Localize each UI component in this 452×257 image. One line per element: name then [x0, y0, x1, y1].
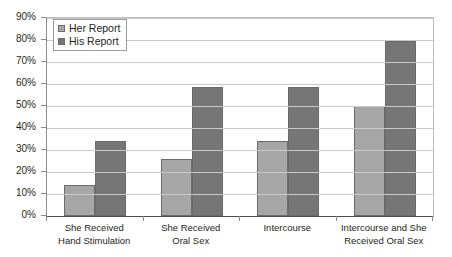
legend-item-label: Her Report	[69, 23, 120, 34]
x-category-line: Intercourse and She	[337, 222, 432, 235]
gridline	[47, 62, 433, 63]
legend-item[interactable]: His Report	[58, 36, 120, 47]
legend-item-label: His Report	[69, 36, 119, 47]
y-tick-label: 10%	[16, 188, 36, 198]
legend-swatch-her-icon	[58, 25, 65, 32]
y-axis: 90%80%70%60%50%40%30%20%10%0%	[0, 0, 41, 257]
gridline	[47, 172, 433, 173]
y-tick-label: 60%	[16, 78, 36, 88]
y-tick-label: 80%	[16, 34, 36, 44]
y-tick-label: 90%	[16, 12, 36, 22]
bar-group	[240, 18, 337, 216]
y-tick-mark	[41, 193, 46, 194]
y-tick-label: 70%	[16, 56, 36, 66]
bar-her-report[interactable]	[161, 159, 192, 216]
bar-group	[144, 18, 241, 216]
chart-legend: Her ReportHis Report	[53, 19, 127, 51]
x-axis: She ReceivedHand StimulationShe Received…	[46, 222, 432, 247]
y-tick-mark	[41, 171, 46, 172]
y-tick-mark	[41, 39, 46, 40]
y-tick-label: 20%	[16, 166, 36, 176]
x-category-label: She ReceivedHand Stimulation	[46, 222, 143, 247]
legend-swatch-his-icon	[58, 38, 65, 45]
x-tick-mark	[336, 216, 337, 221]
gridline	[47, 106, 433, 107]
y-tick-mark	[41, 127, 46, 128]
y-tick-mark	[41, 83, 46, 84]
gridline	[47, 150, 433, 151]
x-category-line: Oral Sex	[144, 235, 239, 248]
y-tick-label: 30%	[16, 144, 36, 154]
y-tick-label: 0%	[22, 210, 36, 220]
bar-her-report[interactable]	[354, 106, 385, 216]
y-tick-mark	[41, 17, 46, 18]
y-tick-label: 40%	[16, 122, 36, 132]
x-category-label: She ReceivedOral Sex	[143, 222, 240, 247]
y-tick-mark	[41, 61, 46, 62]
x-tick-mark	[46, 216, 47, 221]
grouped-bar-chart: 90%80%70%60%50%40%30%20%10%0% She Receiv…	[0, 0, 452, 257]
gridline	[47, 128, 433, 129]
y-tick-label: 50%	[16, 100, 36, 110]
y-tick-mark	[41, 149, 46, 150]
x-tick-mark	[432, 216, 433, 221]
x-tick-mark	[143, 216, 144, 221]
bar-her-report[interactable]	[257, 141, 288, 216]
bar-group	[337, 18, 434, 216]
x-category-line: She Received	[144, 222, 239, 235]
bar-her-report[interactable]	[64, 185, 95, 216]
legend-item[interactable]: Her Report	[58, 23, 120, 34]
gridline	[47, 194, 433, 195]
x-tick-mark	[239, 216, 240, 221]
x-category-label: Intercourse	[239, 222, 336, 247]
x-category-line: Intercourse	[240, 222, 335, 235]
x-category-label: Intercourse and SheReceived Oral Sex	[336, 222, 433, 247]
y-tick-mark	[41, 105, 46, 106]
bar-his-report[interactable]	[95, 141, 126, 216]
x-category-line: She Received	[47, 222, 142, 235]
gridline	[47, 84, 433, 85]
x-category-line: Received Oral Sex	[337, 235, 432, 248]
x-category-line: Hand Stimulation	[47, 235, 142, 248]
